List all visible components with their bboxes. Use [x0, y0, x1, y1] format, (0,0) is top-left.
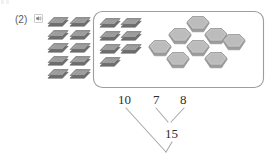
manipulatives-and-number-bond: [0, 0, 275, 158]
number-bond-addend-a: 7: [153, 92, 160, 108]
number-bond-partial-sum: 15: [165, 126, 178, 142]
number-bond-ten: 10: [118, 92, 131, 108]
worksheet-canvas: (2): [0, 0, 275, 158]
number-bond-addend-b: 8: [180, 92, 187, 108]
ten-slabs-outside-box: [48, 18, 90, 79]
